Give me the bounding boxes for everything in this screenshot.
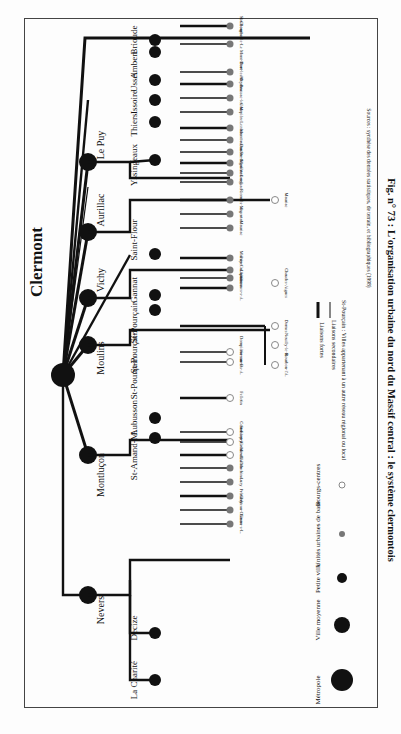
unite-urbaine-node	[227, 170, 234, 177]
petite-ville-node	[149, 74, 161, 86]
legend-petite-ville-dot	[337, 573, 347, 583]
label-nevers: Nevers	[95, 596, 106, 624]
bourg-centre-node	[272, 323, 279, 330]
unite-urbaine-node	[227, 109, 234, 116]
link-montlucon	[63, 375, 88, 455]
label-thiers: Thiers	[129, 113, 139, 136]
unite-urbaine-node	[227, 211, 234, 218]
unit-label: Mauriac	[239, 221, 244, 236]
unite-urbaine-node	[227, 493, 234, 500]
legend-strong-label: Liaisons fortes	[319, 322, 325, 358]
unit-label: Varennes-s-A.	[239, 349, 244, 375]
label-aurillac: Aurillac	[95, 193, 106, 226]
legend-metropole-dot	[331, 669, 353, 691]
bourg-centre-node	[272, 342, 279, 349]
label-moulins: Moulins	[95, 341, 106, 374]
legend-ville-moyenne-label: Ville moyenne	[314, 600, 322, 641]
unite-urbaine-node	[227, 465, 234, 472]
bourg-centre-node	[227, 395, 234, 402]
petite-ville-node	[149, 304, 161, 316]
unite-urbaine-node	[227, 125, 234, 132]
bourg-centre-node	[272, 362, 279, 369]
unite-urbaine-node	[227, 41, 234, 48]
bourg-label: Dornes	[284, 320, 289, 333]
figure-caption: Fig. n° 73 : L'organisation urbaine du n…	[386, 178, 397, 562]
petite-ville-node	[149, 432, 161, 444]
legend-metropole-label: Métropole	[314, 675, 322, 704]
unit-label: Varennes-s-A.	[239, 275, 244, 301]
metropole-node	[51, 363, 75, 387]
label-st-pourcain-3: St-Pourçain	[129, 356, 139, 399]
unite-urbaine-node	[227, 285, 234, 292]
bourg-centre-node	[272, 280, 279, 287]
hub-label: Clermont	[27, 227, 46, 297]
unite-urbaine-node	[227, 95, 234, 102]
bourg-centre-node	[227, 452, 234, 459]
bourg-label: Chaudes-Aigues	[284, 268, 289, 298]
label-vichy: Vichy	[95, 268, 106, 292]
label-le-puy: Le Puy	[95, 131, 106, 160]
legend-unite-label: Unités urbaines de base	[314, 501, 322, 567]
unite-urbaine-node	[227, 267, 234, 274]
unite-urbaine-node	[227, 197, 234, 204]
unite-urbaine-node	[227, 255, 234, 262]
unite-urbaine-node	[227, 81, 234, 88]
unit-label: Luzy	[239, 477, 244, 487]
unit-label: Felletin	[239, 391, 244, 405]
bourg-centre-node	[227, 429, 234, 436]
bourg-centre-node	[227, 359, 234, 366]
unite-urbaine-node	[227, 69, 234, 76]
sources-text: Sources : synthèse des données statistiq…	[365, 108, 372, 287]
unite-urbaine-node	[227, 179, 234, 186]
petite-ville-node	[149, 94, 161, 106]
bourg-label: Mauriac	[284, 193, 289, 208]
bourg-centre-node	[227, 349, 234, 356]
label-brioude: Brioude	[129, 25, 139, 54]
unite-urbaine-node	[227, 23, 234, 30]
petite-ville-node	[149, 34, 161, 46]
legend-bourg-label: Bourgs-centres	[314, 464, 322, 507]
label-montlucon: Montluçon	[95, 453, 106, 497]
unite-urbaine-node	[227, 275, 234, 282]
unite-urbaine-node	[227, 149, 234, 156]
petite-ville-node	[149, 116, 161, 128]
unite-urbaine-node	[227, 225, 234, 232]
unite-urbaine-node	[227, 160, 234, 167]
link-nevers	[63, 375, 88, 595]
petite-ville-node	[149, 248, 161, 260]
petite-ville-node	[149, 412, 161, 424]
urban-network-diagram: ClermontLe PuyAurillacVichyMoulinsMontlu…	[0, 0, 401, 734]
petite-ville-node	[149, 289, 161, 301]
unite-urbaine-node	[227, 507, 234, 514]
unit-label: Cosne-s-L.	[239, 514, 244, 534]
label-issoire: Issoire	[129, 90, 139, 114]
link-nevers-branch	[88, 560, 230, 595]
legend-unite-dot	[339, 531, 345, 537]
unite-urbaine-node	[227, 479, 234, 486]
bourg-centre-node	[227, 439, 234, 446]
petite-ville-node	[149, 46, 161, 58]
legend-note: St-Pourçain : Villes appartenant à un au…	[341, 300, 347, 460]
unite-urbaine-node	[227, 137, 234, 144]
unit-label: La Machine	[239, 457, 244, 479]
unite-urbaine-node	[227, 521, 234, 528]
bourg-label: Bourbon-l'A.	[284, 353, 289, 377]
unit-label: Courpière	[239, 103, 244, 121]
label-aubusson: Aubusson	[129, 400, 139, 437]
figure: ClermontLe PuyAurillacVichyMoulinsMontlu…	[0, 0, 401, 734]
label-ussel: Ussel	[129, 72, 139, 92]
legend-weak-label: Liaisons secondaires	[331, 320, 337, 370]
legend-bourg-dot	[339, 482, 345, 488]
legend-ville-moyenne-dot	[334, 617, 350, 633]
bourg-centre-node	[272, 197, 279, 204]
unit-label: Langeac	[239, 174, 244, 189]
